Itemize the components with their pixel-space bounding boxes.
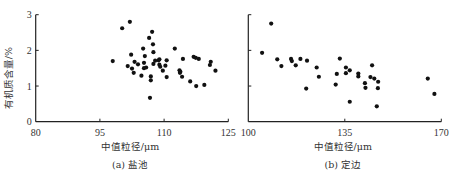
chart-figure: 01238095110125中值粒径/μm(a) 盐池有机质含量/% 10013… [0,0,456,177]
data-point [368,75,372,79]
data-point [209,60,213,64]
data-point [181,57,185,61]
data-point [126,64,130,68]
y-tick-label: 2 [27,45,32,56]
y-axis-label: 有机质含量/% [3,47,14,109]
data-point [275,57,279,61]
x-axis-label: 中值粒径/μm [101,141,159,152]
data-point [315,65,319,69]
data-point [269,22,273,26]
data-point [147,36,151,40]
y-tick-label: 1 [27,81,32,92]
data-point [372,76,376,80]
data-point [376,86,380,90]
data-point [163,64,167,68]
data-point [144,65,148,69]
data-point [348,68,352,72]
panel-caption: (a) 盐池 [112,159,148,170]
data-point [180,75,184,79]
data-point [148,96,152,100]
data-point [178,70,182,74]
data-point [356,74,360,78]
data-point [136,62,140,66]
data-point [173,46,177,50]
panel-b: 100135170中值粒径/μm(b) 定边 [241,15,449,170]
data-point [279,64,283,68]
data-point [165,75,169,79]
data-point [375,104,379,108]
data-point [290,59,294,63]
x-axis-label: 中值粒径/μm [314,141,372,152]
x-tick-label: 95 [95,127,105,138]
data-point [151,50,155,54]
panel-caption: (b) 定边 [325,159,362,170]
data-point [120,26,124,30]
data-point [370,63,374,67]
data-point [161,69,165,73]
data-point [149,74,153,78]
data-point [344,65,348,69]
data-point [141,46,145,50]
x-tick-label: 110 [157,127,172,138]
data-point [344,71,348,75]
x-tick-label: 170 [434,127,449,138]
data-point [139,74,143,78]
x-tick-label: 80 [31,127,41,138]
data-point [129,53,133,57]
data-point [157,57,161,61]
x-tick-label: 100 [241,127,256,138]
data-point [128,20,132,24]
data-point [317,75,321,79]
data-point [197,57,201,61]
data-point [376,80,380,84]
data-point [260,51,264,55]
data-point [194,84,198,88]
data-point [132,60,136,64]
data-point [305,59,309,63]
data-point [132,71,136,75]
data-point [142,61,146,65]
data-point [426,76,430,80]
data-point [363,86,367,90]
panel-a: 01238095110125中值粒径/μm(a) 盐池有机质含量/% [3,9,236,170]
x-tick-label: 135 [337,127,352,138]
data-point [298,57,302,61]
data-point [348,100,352,104]
data-point [150,30,154,34]
data-point [202,83,206,87]
y-tick-label: 3 [27,9,32,20]
y-tick-label: 0 [27,116,32,127]
data-point [188,79,192,83]
data-point [338,56,342,60]
data-point [111,59,115,63]
data-point [151,42,155,46]
data-point [149,78,153,82]
data-point [334,83,338,87]
data-point [158,65,162,69]
data-point [130,66,134,70]
data-point [363,81,367,85]
data-point [304,86,308,90]
data-point [432,92,436,96]
data-point [213,69,217,73]
data-point [294,63,298,67]
data-point [143,54,147,58]
data-point [165,58,169,62]
x-tick-label: 125 [221,127,236,138]
data-point [335,72,339,76]
